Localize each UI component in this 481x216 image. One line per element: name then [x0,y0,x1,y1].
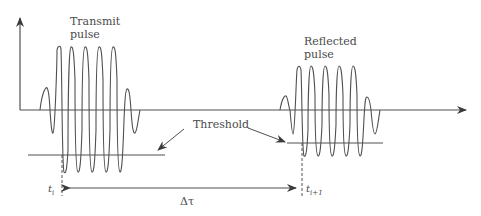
radar-pulse-diagram: Transmit pulse Reflected pulse Threshold… [0,0,481,216]
threshold-arrow-left [158,129,184,150]
reflected-label-line2: pulse [304,48,334,61]
t-i1-label: ti+1 [306,183,323,197]
delta-tau-label: Δτ [180,195,194,208]
threshold-arrow-right [248,128,285,142]
threshold-label: Threshold [193,118,249,131]
transmit-label-line1: Transmit [70,15,121,28]
reflected-label-line1: Reflected [304,35,357,48]
transmit-label-line2: pulse [70,28,100,41]
t-i-label: ti [48,183,54,197]
